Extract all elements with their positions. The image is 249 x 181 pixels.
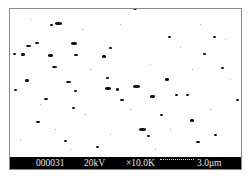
scale-bar-label: 3.0μm [197,157,221,169]
micrograph-field [10,9,241,159]
accelerating-voltage: 20kV [84,157,105,169]
image-number: 000031 [36,157,65,169]
sem-micrograph: 000031 20kV ×10.0K 3.0μm [9,8,242,170]
sem-info-bar: 000031 20kV ×10.0K 3.0μm [10,157,241,169]
magnification: ×10.0K [126,157,155,169]
scale-bar-line [160,159,194,161]
